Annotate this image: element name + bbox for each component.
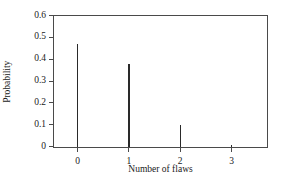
x-axis-tick: 0 bbox=[77, 147, 78, 152]
y-axis-tick-label: 0.1 bbox=[34, 120, 46, 130]
y-axis-title-text: Probability bbox=[3, 60, 13, 102]
y-axis-tick: 0.6 bbox=[49, 15, 54, 16]
y-axis-title: Probability bbox=[2, 15, 14, 148]
y-axis-tick: 0.5 bbox=[49, 37, 54, 38]
plot-area: 00.10.20.30.40.50.6 0123 bbox=[53, 15, 268, 148]
y-axis-tick-label: 0.6 bbox=[34, 11, 46, 21]
data-spike bbox=[128, 64, 129, 147]
x-axis-tick: 2 bbox=[180, 147, 181, 152]
y-axis-tick-label: 0.2 bbox=[34, 98, 46, 108]
data-spike bbox=[77, 44, 78, 147]
y-axis-tick-label: 0.4 bbox=[34, 54, 46, 64]
y-axis-tick-label: 0.3 bbox=[34, 76, 46, 86]
data-spike bbox=[180, 125, 181, 147]
x-axis-title: Number of flaws bbox=[53, 165, 268, 175]
y-axis-tick-label: 0.5 bbox=[34, 33, 46, 43]
y-axis-tick: 0.2 bbox=[49, 102, 54, 103]
x-axis-tick: 1 bbox=[128, 147, 129, 152]
y-axis-tick-label: 0 bbox=[41, 142, 46, 152]
x-axis-tick: 3 bbox=[231, 147, 232, 152]
y-axis-tick: 0.3 bbox=[49, 81, 54, 82]
data-spike bbox=[231, 145, 232, 147]
y-axis-tick: 0.1 bbox=[49, 124, 54, 125]
y-axis-tick: 0.4 bbox=[49, 59, 54, 60]
probability-chart: Probability 00.10.20.30.40.50.6 0123 Num… bbox=[0, 0, 282, 186]
y-axis-tick: 0 bbox=[49, 146, 54, 147]
